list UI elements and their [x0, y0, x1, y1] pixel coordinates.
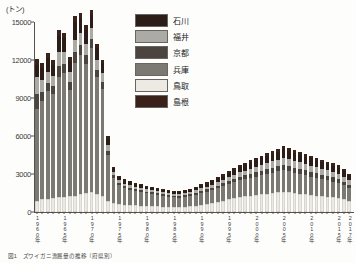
- bar-segment: [282, 158, 286, 165]
- bar-segment: [51, 65, 55, 76]
- x-tick-mark: [223, 212, 224, 214]
- bar-stack: [134, 183, 138, 212]
- x-tick-mark: [151, 212, 152, 214]
- bar-segment: [304, 194, 308, 212]
- bar-segment: [106, 155, 110, 201]
- bar-segment: [62, 64, 66, 73]
- bar-segment: [260, 175, 264, 194]
- bar-segment: [79, 18, 83, 33]
- bar-segment: [320, 162, 324, 169]
- bar-segment: [134, 191, 138, 206]
- bar-segment: [326, 197, 330, 212]
- bar-stack: [84, 25, 88, 212]
- bar-stack: [40, 63, 44, 212]
- bar-segment: [68, 196, 72, 212]
- bar-segment: [227, 199, 231, 212]
- x-tick-mark: [135, 212, 136, 214]
- legend-item[interactable]: 鳥取: [135, 79, 189, 92]
- x-tick-mark: [338, 212, 339, 214]
- bar-segment: [35, 109, 39, 200]
- y-axis-unit-label: (トン): [6, 3, 24, 14]
- bar-stack: [57, 30, 61, 212]
- bar-stack: [276, 149, 280, 212]
- bar-stack: [282, 146, 286, 212]
- bar-column[interactable]: [347, 22, 352, 212]
- bar-segment: [276, 160, 280, 167]
- bar-segment: [68, 90, 72, 196]
- bar-segment: [128, 205, 132, 212]
- bar-segment: [265, 156, 269, 163]
- chart-legend: 石川福井京都兵庫鳥取島根: [135, 14, 189, 108]
- bar-segment: [40, 101, 44, 200]
- bar-segment: [249, 178, 253, 196]
- legend-item[interactable]: 島根: [135, 95, 189, 108]
- legend-item[interactable]: 兵庫: [135, 63, 189, 76]
- bar-series-container: [34, 22, 352, 212]
- bar-stack: [205, 182, 209, 212]
- x-tick-mark: [310, 212, 311, 214]
- bar-segment: [337, 183, 341, 198]
- x-tick-mark: [140, 212, 141, 214]
- bar-segment: [79, 45, 83, 55]
- bar-segment: [276, 192, 280, 212]
- bar-segment: [298, 174, 302, 194]
- bar-segment: [172, 197, 176, 207]
- bar-segment: [101, 73, 105, 82]
- bar-segment: [293, 173, 297, 193]
- legend-item[interactable]: 福井: [135, 30, 189, 43]
- bar-stack: [227, 171, 231, 212]
- bar-segment: [57, 52, 61, 66]
- legend-color-swatch: [135, 95, 168, 108]
- bar-segment: [304, 175, 308, 194]
- x-tick-mark: [58, 212, 59, 214]
- bar-segment: [347, 201, 351, 212]
- bar-stack: [51, 60, 55, 212]
- bar-segment: [90, 39, 94, 48]
- x-tick-mark: [234, 212, 235, 214]
- bar-segment: [117, 204, 121, 212]
- x-tick-mark: [86, 212, 87, 214]
- bar-segment: [73, 63, 77, 196]
- bar-segment: [331, 182, 335, 198]
- bar-segment: [309, 158, 313, 165]
- x-tick-mark: [272, 212, 273, 214]
- bar-segment: [249, 196, 253, 212]
- bar-segment: [62, 197, 66, 212]
- bar-segment: [134, 205, 138, 212]
- bar-segment: [243, 179, 247, 196]
- x-tick-mark: [217, 212, 218, 214]
- bar-stack: [249, 160, 253, 212]
- x-tick-mark: [129, 212, 130, 214]
- bar-segment: [342, 199, 346, 212]
- bar-segment: [254, 177, 258, 195]
- bar-segment: [128, 190, 132, 205]
- bar-segment: [79, 33, 83, 45]
- bar-segment: [188, 196, 192, 206]
- bar-segment: [84, 55, 88, 64]
- bar-segment: [199, 193, 203, 205]
- bar-stack: [145, 186, 149, 212]
- bar-segment: [95, 194, 99, 212]
- bar-segment: [210, 203, 214, 212]
- bar-segment: [293, 161, 297, 168]
- bar-stack: [221, 174, 225, 212]
- bar-segment: [112, 178, 116, 203]
- bar-stack: [342, 169, 346, 212]
- legend-item[interactable]: 京都: [135, 46, 189, 59]
- bar-segment: [101, 63, 105, 73]
- bar-segment: [337, 198, 341, 212]
- bar-stack: [293, 150, 297, 212]
- bar-segment: [57, 77, 61, 197]
- bar-segment: [254, 195, 258, 212]
- bar-segment: [101, 82, 105, 89]
- x-tick-mark: [206, 212, 207, 214]
- bar-stack: [172, 191, 176, 212]
- bar-segment: [183, 197, 187, 207]
- x-tick-mark: [321, 212, 322, 214]
- legend-item[interactable]: 石川: [135, 14, 189, 27]
- bar-segment: [309, 177, 313, 195]
- x-tick-label: 2017年: [347, 215, 353, 242]
- bar-segment: [35, 94, 39, 109]
- bar-stack: [123, 179, 127, 212]
- bar-segment: [161, 196, 165, 207]
